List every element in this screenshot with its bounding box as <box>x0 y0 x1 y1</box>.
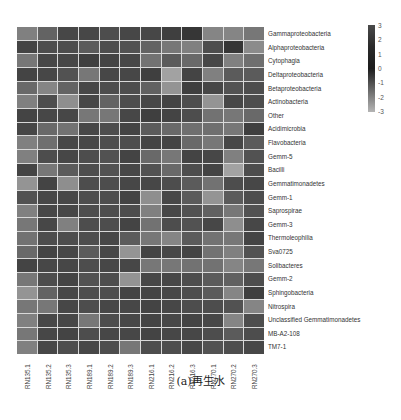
heatmap-cell <box>224 300 244 313</box>
heatmap-cell <box>79 314 99 327</box>
heatmap-cell <box>182 246 202 259</box>
heatmap-cell <box>203 246 223 259</box>
heatmap-cell <box>203 150 223 163</box>
heatmap-cell <box>141 27 161 40</box>
row-label: Gemm-2 <box>268 272 360 286</box>
heatmap-cell <box>58 41 78 54</box>
heatmap-cell <box>182 218 202 231</box>
heatmap-cell <box>17 54 37 67</box>
heatmap-cell <box>203 300 223 313</box>
heatmap-cell <box>224 123 244 136</box>
heatmap-cell <box>224 341 244 354</box>
heatmap-cell <box>244 68 264 81</box>
row-label: Acidimicrobia <box>268 122 360 136</box>
heatmap-cell <box>58 82 78 95</box>
heatmap-cell <box>79 246 99 259</box>
heatmap-cell <box>38 123 58 136</box>
heatmap-cell <box>141 328 161 341</box>
heatmap-cell <box>162 54 182 67</box>
heatmap-cell <box>58 191 78 204</box>
heatmap-cell <box>182 68 202 81</box>
heatmap-cell <box>79 95 99 108</box>
heatmap-cell <box>79 54 99 67</box>
heatmap-cell <box>100 164 120 177</box>
heatmap-cell <box>203 68 223 81</box>
heatmap-cell <box>203 95 223 108</box>
heatmap-cell <box>58 218 78 231</box>
heatmap-cell <box>17 109 37 122</box>
heatmap-cell <box>162 123 182 136</box>
heatmap-cell <box>182 177 202 190</box>
heatmap-cell <box>244 205 264 218</box>
heatmap-cell <box>244 300 264 313</box>
heatmap-cell <box>120 136 140 149</box>
heatmap-cell <box>100 259 120 272</box>
heatmap-cell <box>141 287 161 300</box>
heatmap-cell <box>100 82 120 95</box>
colorbar-tick: 1 <box>378 51 382 58</box>
heatmap-cell <box>100 27 120 40</box>
heatmap-cell <box>100 136 120 149</box>
heatmap-cell <box>224 136 244 149</box>
heatmap-cell <box>38 259 58 272</box>
heatmap-cell <box>162 191 182 204</box>
heatmap-cell <box>100 246 120 259</box>
heatmap-cell <box>17 205 37 218</box>
heatmap-cell <box>17 136 37 149</box>
heatmap-cell <box>224 191 244 204</box>
heatmap-cell <box>162 341 182 354</box>
heatmap-cell <box>120 191 140 204</box>
heatmap-cell <box>182 41 202 54</box>
heatmap-cell <box>120 150 140 163</box>
heatmap-cell <box>162 136 182 149</box>
heatmap-cell <box>38 218 58 231</box>
heatmap-cell <box>58 341 78 354</box>
heatmap-cell <box>203 27 223 40</box>
heatmap-cell <box>120 109 140 122</box>
heatmap-cell <box>17 300 37 313</box>
heatmap-cell <box>244 177 264 190</box>
heatmap-cell <box>203 136 223 149</box>
heatmap-cell <box>120 328 140 341</box>
heatmap-cell <box>120 68 140 81</box>
heatmap-cell <box>244 82 264 95</box>
heatmap-cell <box>182 82 202 95</box>
row-label: Gemmatimonadetes <box>268 177 360 191</box>
heatmap-cell <box>224 246 244 259</box>
heatmap-cell <box>58 259 78 272</box>
heatmap-grid <box>17 27 264 354</box>
heatmap-cell <box>203 123 223 136</box>
heatmap-cell <box>58 232 78 245</box>
heatmap-cell <box>58 287 78 300</box>
heatmap-cell <box>224 273 244 286</box>
heatmap-cell <box>79 232 99 245</box>
heatmap-cell <box>120 314 140 327</box>
heatmap-cell <box>244 136 264 149</box>
heatmap-cell <box>203 205 223 218</box>
heatmap-cell <box>182 136 202 149</box>
heatmap-cell <box>162 232 182 245</box>
heatmap-cell <box>162 109 182 122</box>
heatmap-cell <box>203 54 223 67</box>
heatmap-cell <box>244 191 264 204</box>
heatmap-cell <box>141 68 161 81</box>
heatmap-cell <box>162 218 182 231</box>
heatmap-cell <box>182 232 202 245</box>
heatmap-cell <box>17 27 37 40</box>
row-label: Gammaproteobacteria <box>268 27 360 41</box>
heatmap-cell <box>79 259 99 272</box>
heatmap-cell <box>182 341 202 354</box>
heatmap-cell <box>58 109 78 122</box>
heatmap-cell <box>141 123 161 136</box>
heatmap-cell <box>100 205 120 218</box>
figure-caption: (a)再生水 <box>0 372 401 388</box>
heatmap-cell <box>17 164 37 177</box>
heatmap-cell <box>58 95 78 108</box>
row-label: Solibacteres <box>268 259 360 273</box>
heatmap-cell <box>120 341 140 354</box>
heatmap-cell <box>141 246 161 259</box>
heatmap-cell <box>17 68 37 81</box>
heatmap-cell <box>244 95 264 108</box>
row-label: Bacilli <box>268 163 360 177</box>
heatmap-cell <box>224 41 244 54</box>
